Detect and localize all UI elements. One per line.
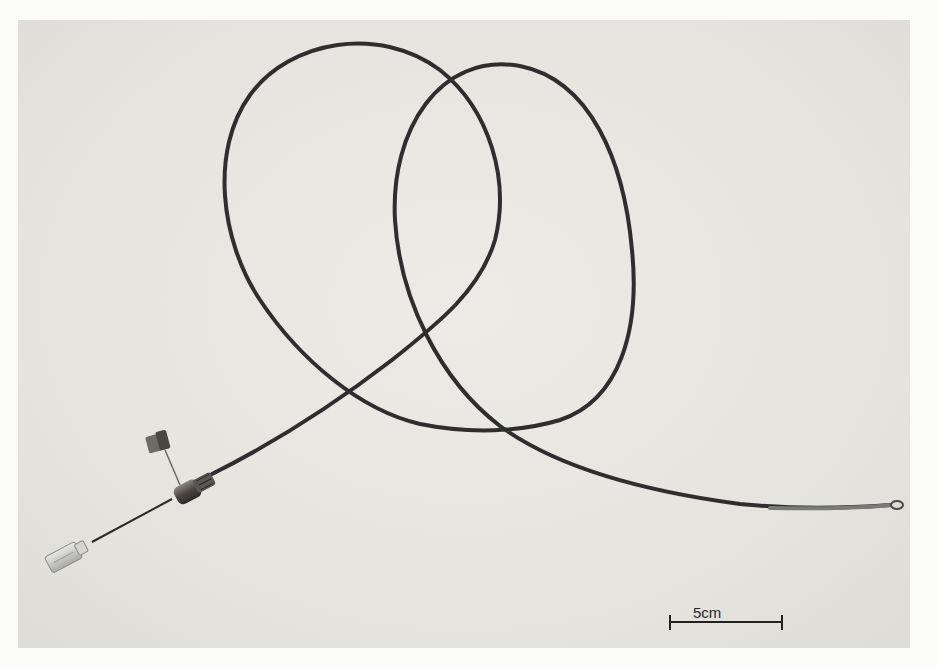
catheter-hub: [172, 470, 218, 506]
catheter-illustration: [18, 20, 910, 648]
side-cap: [145, 430, 171, 454]
catheter-tube: [212, 44, 890, 508]
catheter-tip-loop: [891, 501, 903, 509]
photograph: [18, 20, 910, 648]
scale-bar-label: 5cm: [693, 604, 721, 621]
cap-tether: [165, 450, 180, 485]
scale-bar: [670, 615, 782, 630]
luer-connector: [44, 538, 90, 574]
stylet-wire: [92, 499, 172, 542]
